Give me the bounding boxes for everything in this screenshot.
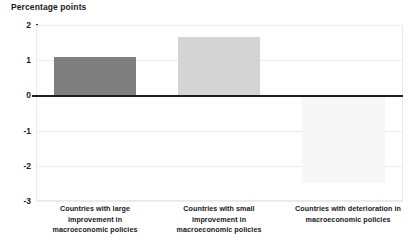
category-label-line-2: macroeconomic policies (284, 215, 412, 226)
bar-large-improvement[interactable] (54, 57, 136, 96)
bar-small-improvement[interactable] (178, 37, 260, 95)
category-label-line-1: Countries with large (42, 204, 148, 215)
y-tick-minus-1: -1 (3, 126, 31, 136)
category-label-line-2: improvement in (42, 215, 148, 226)
category-label-line-1: Countries with small (166, 204, 272, 215)
bar-chart: Percentage points 2 1 0 -1 -2 -3 Countri… (0, 0, 417, 245)
category-label-deterioration: Countries with deterioration in macroeco… (284, 204, 412, 225)
category-label-line-3: macroeconomic policies (42, 225, 148, 236)
x-axis-category-labels: Countries with large improvement in macr… (36, 204, 417, 245)
category-label-line-1: Countries with deterioration in (284, 204, 412, 215)
y-tick-minus-3: -3 (3, 196, 31, 206)
category-label-small-improvement: Countries with small improvement in macr… (166, 204, 272, 236)
y-tick-minus-2: -2 (3, 161, 31, 171)
gridline-2 (36, 25, 403, 26)
y-tick-2: 2 (3, 20, 31, 30)
zero-line (32, 95, 403, 97)
y-tick-1: 1 (3, 55, 31, 65)
y-axis-tick-labels: 2 1 0 -1 -2 -3 (0, 25, 31, 201)
category-label-line-3: macroeconomic policies (166, 225, 272, 236)
bar-deterioration[interactable] (302, 95, 385, 183)
category-label-line-2: improvement in (166, 215, 272, 226)
y-tick-0: 0 (3, 90, 31, 100)
y-axis-title: Percentage points (11, 2, 86, 12)
plot-area (36, 25, 403, 201)
category-label-large-improvement: Countries with large improvement in macr… (42, 204, 148, 236)
gridline-minus-3 (36, 201, 403, 202)
